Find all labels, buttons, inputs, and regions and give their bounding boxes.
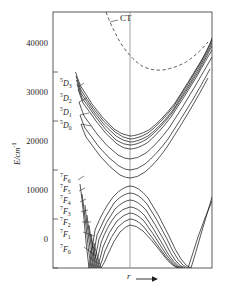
state-label-7F1: 7F1 [60,228,71,240]
y-tick-label-30000: 30000 [10,87,48,97]
state-label-7F1-j: 1 [68,234,71,240]
y-axis-title-exponent: -1 [10,142,17,147]
state-label-7F0-j: 0 [68,249,71,255]
figure-root: 40000 30000 20000 10000 0 E/cm-1 r CT 5D… [0,0,228,291]
state-label-5D3-j: 3 [69,83,72,89]
plot-frame [53,12,212,268]
y-axis-title-unit: /cm [12,148,22,160]
y-tick-label-10000: 10000 [10,185,48,195]
state-label-5D2: 5D2 [60,92,72,104]
state-label-5D1: 5D1 [60,106,72,118]
state-label-5D0-j: 0 [69,125,72,131]
y-axis-title: E/cm-1 [10,142,22,165]
state-label-5D3: 5D3 [60,77,72,89]
ct-label: CT [120,13,132,23]
state-label-7F0: 7F0 [60,243,71,255]
y-tick-label-40000: 40000 [10,38,48,48]
y-axis-title-e: E [12,160,22,165]
state-label-5D1-j: 1 [69,112,72,118]
state-label-5D0: 5D0 [60,119,72,131]
state-label-7F2: 7F2 [60,216,71,228]
x-axis-arrow-icon [135,274,159,284]
x-axis-title: r [127,271,131,281]
state-label-5D2-j: 2 [69,98,72,104]
y-tick-label-0: 0 [10,234,48,244]
